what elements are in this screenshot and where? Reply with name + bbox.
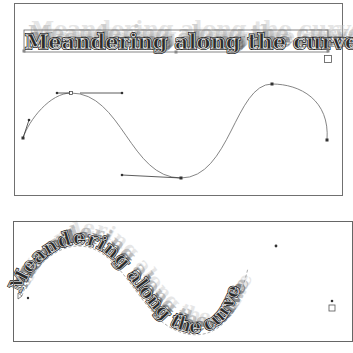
- frame-handle[interactable]: [327, 50, 330, 53]
- anchor-points[interactable]: [22, 83, 329, 180]
- handle-points[interactable]: [28, 92, 124, 177]
- top-text[interactable]: Meandering along the curve: [25, 29, 353, 54]
- frame-handle[interactable]: [23, 50, 26, 53]
- bezier-path[interactable]: [23, 84, 327, 178]
- bottom-artboard-panel: [13, 221, 353, 342]
- overflow-port-icon[interactable]: [325, 56, 332, 63]
- frame-handle[interactable]: [175, 51, 178, 54]
